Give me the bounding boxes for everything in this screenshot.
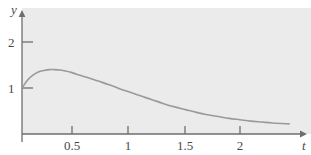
- plot-svg: [0, 0, 311, 155]
- x-tick-label-2: 2: [237, 139, 244, 152]
- y-axis-label: y: [11, 3, 17, 16]
- x-tick-label-1: 1: [125, 139, 132, 152]
- graph-figure: 1 2 0.5 1 1.5 2 y t: [0, 0, 311, 155]
- x-axis-label: t: [302, 139, 306, 152]
- x-tick-label-0.5: 0.5: [64, 139, 80, 152]
- x-tick-label-1.5: 1.5: [177, 139, 193, 152]
- y-tick-label-1: 1: [8, 82, 15, 95]
- y-tick-label-2: 2: [8, 36, 15, 49]
